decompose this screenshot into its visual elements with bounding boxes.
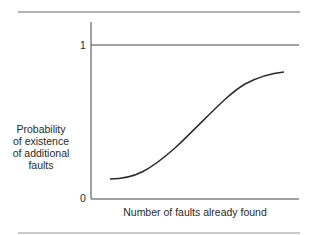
probability-curve — [110, 72, 284, 179]
y-axis-label: Probability of existence of additional f… — [2, 123, 80, 171]
y-label-line: Probability — [2, 123, 80, 135]
y-tick-1: 1 — [80, 39, 86, 51]
y-label-line: of existence — [2, 135, 80, 147]
chart-canvas — [0, 0, 316, 235]
y-label-line: faults — [2, 159, 80, 171]
x-axis-label: Number of faults already found — [91, 206, 299, 218]
y-tick-0: 0 — [80, 192, 86, 204]
y-label-line: of additional — [2, 147, 80, 159]
